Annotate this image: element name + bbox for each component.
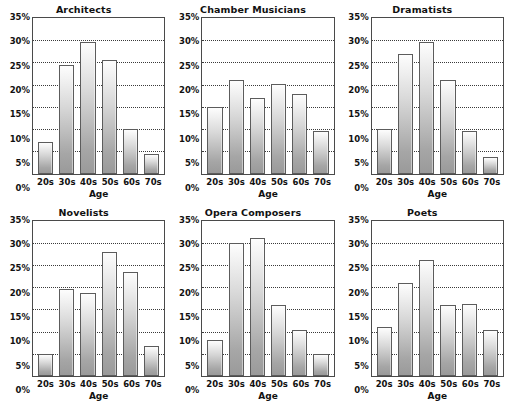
chart-panel-dramatists: Dramatists0%5%10%15%20%25%30%35%20s30s40…: [339, 0, 508, 203]
y-axis-tick-label: 25%: [348, 62, 368, 70]
y-axis-tick-label: 35%: [179, 216, 199, 224]
bar: [483, 330, 498, 376]
x-axis-labels: 20s30s40s50s60s70s: [32, 175, 165, 188]
bar: [229, 243, 244, 376]
bar: [292, 94, 307, 174]
bar: [80, 42, 95, 173]
y-axis-tick-label: 0%: [16, 386, 30, 394]
x-axis-tick-label: 30s: [397, 379, 413, 390]
bar: [102, 252, 117, 376]
y-axis: 0%5%10%15%20%25%30%35%: [2, 17, 32, 188]
bar-series: [33, 18, 164, 174]
x-axis-tick-label: 20s: [206, 379, 222, 390]
bar-series: [33, 221, 164, 377]
plot-area: [32, 220, 165, 378]
y-axis-tick-label: 30%: [10, 37, 30, 45]
y-axis-tick-label: 5%: [16, 159, 30, 167]
y-axis-tick-label: 15%: [179, 313, 199, 321]
x-axis-tick-label: 50s: [271, 177, 287, 188]
x-axis-tick-label: 50s: [440, 379, 456, 390]
y-axis-tick-label: 30%: [348, 37, 368, 45]
y-axis-tick-label: 35%: [348, 216, 368, 224]
plot-wrapper: 20s30s40s50s60s70s: [32, 220, 165, 391]
chart-panel-poets: Poets0%5%10%15%20%25%30%35%20s30s40s50s6…: [339, 203, 508, 405]
y-axis-tick-label: 10%: [10, 135, 30, 143]
x-axis-labels: 20s30s40s50s60s70s: [201, 175, 334, 188]
chart-area: 0%5%10%15%20%25%30%35%20s30s40s50s60s70s: [171, 17, 334, 188]
bar: [207, 107, 222, 174]
bar: [419, 260, 434, 376]
x-axis-labels: 20s30s40s50s60s70s: [32, 377, 165, 390]
y-axis-tick-label: 30%: [179, 37, 199, 45]
bar: [271, 84, 286, 174]
y-axis-tick-label: 35%: [179, 13, 199, 21]
plot-wrapper: 20s30s40s50s60s70s: [201, 220, 334, 391]
y-axis: 0%5%10%15%20%25%30%35%: [341, 220, 371, 391]
y-axis-tick-label: 20%: [10, 289, 30, 297]
y-axis-tick-label: 0%: [354, 184, 368, 192]
y-axis-tick-label: 0%: [185, 184, 199, 192]
plot-area: [32, 17, 165, 175]
y-axis-tick-label: 0%: [185, 386, 199, 394]
y-axis: 0%5%10%15%20%25%30%35%: [341, 17, 371, 188]
bar: [59, 289, 74, 376]
y-axis-tick-label: 25%: [179, 62, 199, 70]
bar: [313, 131, 328, 173]
y-axis-tick-label: 5%: [16, 362, 30, 370]
y-axis-tick-label: 20%: [348, 86, 368, 94]
x-axis-tick-label: 20s: [37, 379, 53, 390]
x-axis-tick-label: 30s: [228, 379, 244, 390]
y-axis-tick-label: 35%: [10, 13, 30, 21]
bar: [377, 129, 392, 173]
chart-panel-architects: Architects0%5%10%15%20%25%30%35%20s30s40…: [0, 0, 169, 203]
bar: [377, 327, 392, 376]
bar: [462, 131, 477, 173]
bar: [250, 238, 265, 376]
bar: [144, 346, 159, 376]
plot-wrapper: 20s30s40s50s60s70s: [201, 17, 334, 188]
bar: [229, 80, 244, 173]
y-axis-tick-label: 5%: [354, 159, 368, 167]
x-axis-tick-label: 20s: [376, 379, 392, 390]
bar: [80, 293, 95, 376]
y-axis: 0%5%10%15%20%25%30%35%: [171, 220, 201, 391]
bar: [38, 354, 53, 376]
x-axis-tick-label: 50s: [102, 379, 118, 390]
x-axis-tick-label: 60s: [123, 379, 139, 390]
y-axis-tick-label: 25%: [10, 264, 30, 272]
plot-area: [371, 220, 504, 378]
y-axis-tick-label: 15%: [10, 110, 30, 118]
bar-series: [202, 18, 333, 174]
bar: [102, 60, 117, 173]
y-axis-tick-label: 20%: [348, 289, 368, 297]
x-axis-tick-label: 70s: [145, 379, 161, 390]
x-axis-tick-label: 70s: [483, 379, 499, 390]
x-axis-tick-label: 70s: [483, 177, 499, 188]
x-axis-tick-label: 40s: [80, 177, 96, 188]
y-axis-tick-label: 10%: [348, 337, 368, 345]
x-axis-tick-label: 40s: [249, 379, 265, 390]
plot-wrapper: 20s30s40s50s60s70s: [371, 220, 504, 391]
y-axis-tick-label: 20%: [10, 86, 30, 94]
bar: [462, 304, 477, 376]
chart-grid: Architects0%5%10%15%20%25%30%35%20s30s40…: [0, 0, 508, 405]
y-axis-tick-label: 5%: [185, 362, 199, 370]
y-axis-tick-label: 35%: [348, 13, 368, 21]
chart-area: 0%5%10%15%20%25%30%35%20s30s40s50s60s70s: [2, 17, 165, 188]
x-axis-labels: 20s30s40s50s60s70s: [371, 377, 504, 390]
y-axis-tick-label: 20%: [179, 289, 199, 297]
y-axis-tick-label: 30%: [10, 240, 30, 248]
y-axis-tick-label: 25%: [348, 264, 368, 272]
bar-series: [202, 221, 333, 377]
x-axis-tick-label: 20s: [37, 177, 53, 188]
bar: [398, 54, 413, 174]
plot-wrapper: 20s30s40s50s60s70s: [371, 17, 504, 188]
x-axis-tick-label: 70s: [314, 379, 330, 390]
plot-wrapper: 20s30s40s50s60s70s: [32, 17, 165, 188]
chart-panel-chamber-musicians: Chamber Musicians0%5%10%15%20%25%30%35%2…: [169, 0, 338, 203]
y-axis: 0%5%10%15%20%25%30%35%: [2, 220, 32, 391]
y-axis-tick-label: 10%: [348, 135, 368, 143]
chart-area: 0%5%10%15%20%25%30%35%20s30s40s50s60s70s: [341, 17, 504, 188]
x-axis-tick-label: 30s: [397, 177, 413, 188]
y-axis-tick-label: 5%: [185, 159, 199, 167]
